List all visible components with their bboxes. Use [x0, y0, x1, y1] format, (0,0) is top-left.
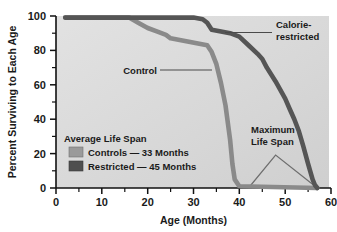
x-tick-label-40: 40 — [233, 196, 245, 208]
x-tick-label-50: 50 — [279, 196, 291, 208]
legend-label-controls: Controls — 33 Months — [88, 147, 189, 158]
x-tick-label-0: 0 — [53, 196, 59, 208]
control-label: Control — [123, 65, 157, 76]
maximum-life-span-label-line2: Life Span — [251, 136, 294, 147]
legend-swatch-restricted — [69, 161, 83, 171]
legend-swatch-controls — [69, 147, 83, 157]
y-tick-label-100: 100 — [28, 10, 46, 22]
y-tick-label-20: 20 — [34, 148, 46, 160]
calorie-restricted-label-line2: restricted — [276, 31, 319, 42]
y-tick-label-40: 40 — [34, 113, 46, 125]
chart-canvas: 100 80 60 40 20 0 0 10 20 30 40 50 60 Ag… — [0, 0, 337, 232]
y-tick-label-60: 60 — [34, 79, 46, 91]
survival-curve-figure: 100 80 60 40 20 0 0 10 20 30 40 50 60 Ag… — [0, 0, 337, 232]
maximum-life-span-label-line1: Maximum — [251, 124, 295, 135]
x-tick-label-60: 60 — [325, 196, 337, 208]
x-tick-label-30: 30 — [187, 196, 199, 208]
y-axis-title: Percent Surviving to Each Age — [6, 26, 18, 179]
y-tick-label-0: 0 — [40, 182, 46, 194]
legend-title: Average Life Span — [64, 133, 147, 144]
y-tick-label-80: 80 — [34, 44, 46, 56]
x-axis-title: Age (Months) — [160, 214, 227, 226]
x-tick-label-10: 10 — [96, 196, 108, 208]
x-tick-label-20: 20 — [142, 196, 154, 208]
calorie-restricted-label-line1: Calorie- — [276, 19, 311, 30]
legend-label-restricted: Restricted — 45 Months — [88, 161, 196, 172]
